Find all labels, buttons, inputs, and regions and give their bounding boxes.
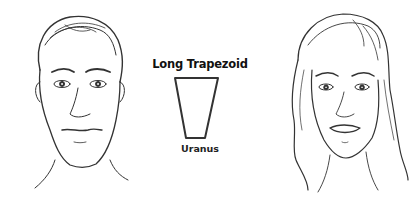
trapezoid-shape-icon	[170, 74, 225, 144]
shape-caption: Uranus	[170, 143, 230, 154]
shape-title: Long Trapezoid	[150, 57, 250, 71]
female-face-illustration	[268, 0, 413, 201]
male-face-illustration	[10, 0, 135, 201]
